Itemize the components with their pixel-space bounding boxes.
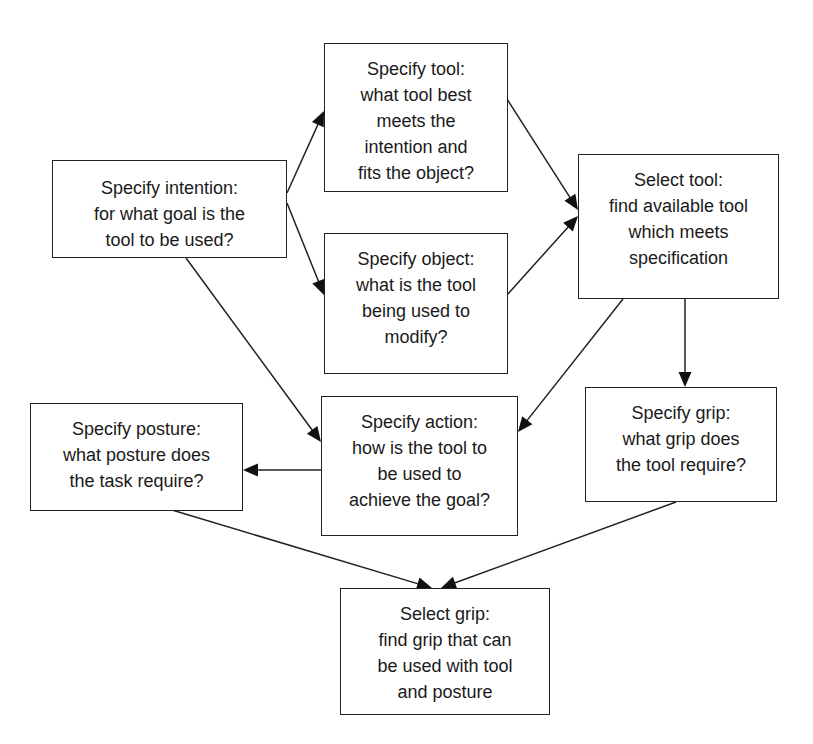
node-text-line: what grip does [622,426,739,452]
arrowhead-icon [563,216,578,232]
node-title: Specify object: [357,246,474,272]
node-title: Specify grip: [631,400,730,426]
arrowhead-icon [518,416,532,432]
edge-specify-intention-to-specify-tool [287,111,324,193]
node-specify-intention: Specify intention: for what goal is the … [52,160,287,258]
arrowhead-icon [679,372,692,387]
edge-specify-action-to-specify-posture [243,464,321,477]
node-specify-posture: Specify posture: what posture does the t… [30,403,243,511]
node-select-grip: Select grip: find grip that can be used … [340,588,550,715]
edge-line [507,99,573,202]
node-text-line: what is the tool [356,272,476,298]
node-specify-tool: Specify tool: what tool best meets the i… [324,43,508,192]
arrowhead-icon [312,279,324,295]
node-title: Select grip: [400,601,490,627]
node-title: Specify posture: [72,416,201,442]
node-text-line: what posture does [63,442,210,468]
node-text-line: being used to [362,298,470,324]
node-title: Specify tool: [367,56,465,82]
node-text-line: specification [629,245,728,271]
node-text-line: what tool best [360,82,471,108]
node-text-line: how is the tool to [352,435,487,461]
arrowhead-icon [312,111,324,127]
edge-select-tool-to-specify-grip [679,299,692,387]
node-text-line: find available tool [609,193,748,219]
node-text-line: achieve the goal? [349,487,490,513]
edge-line [507,223,571,295]
node-title: Specify intention: [101,175,238,201]
node-text-line: find grip that can [378,627,511,653]
node-text-line: the tool require? [616,452,746,478]
edge-line [287,120,320,193]
node-text-line: for what goal is the [94,201,245,227]
node-text-line: the task require? [69,468,203,494]
edge-specify-object-to-select-tool [507,216,578,295]
node-title: Specify action: [361,409,478,435]
node-text-line: meets the [376,108,455,134]
arrowhead-icon [307,426,321,442]
node-text-line: tool to be used? [105,227,233,253]
node-text-line: be used with tool [377,653,512,679]
edge-specify-intention-to-specify-object [287,203,324,295]
node-title: Select tool: [634,167,723,193]
node-text-line: and posture [397,679,492,705]
arrowhead-icon [564,194,578,210]
node-specify-action: Specify action: how is the tool to be us… [321,396,518,536]
edge-line [287,203,320,286]
node-select-tool: Select tool: find available tool which m… [578,154,779,299]
node-specify-grip: Specify grip: what grip does the tool re… [585,387,777,502]
node-text-line: modify? [384,324,447,350]
node-text-line: which meets [628,219,728,245]
edge-specify-tool-to-select-tool [507,99,578,210]
node-text-line: intention and [364,134,467,160]
flowchart: Specify intention: for what goal is the … [0,0,813,744]
node-text-line: be used to [377,461,461,487]
node-text-line: fits the object? [358,160,474,186]
arrowhead-icon [243,464,258,477]
node-specify-object: Specify object: what is the tool being u… [324,233,508,374]
